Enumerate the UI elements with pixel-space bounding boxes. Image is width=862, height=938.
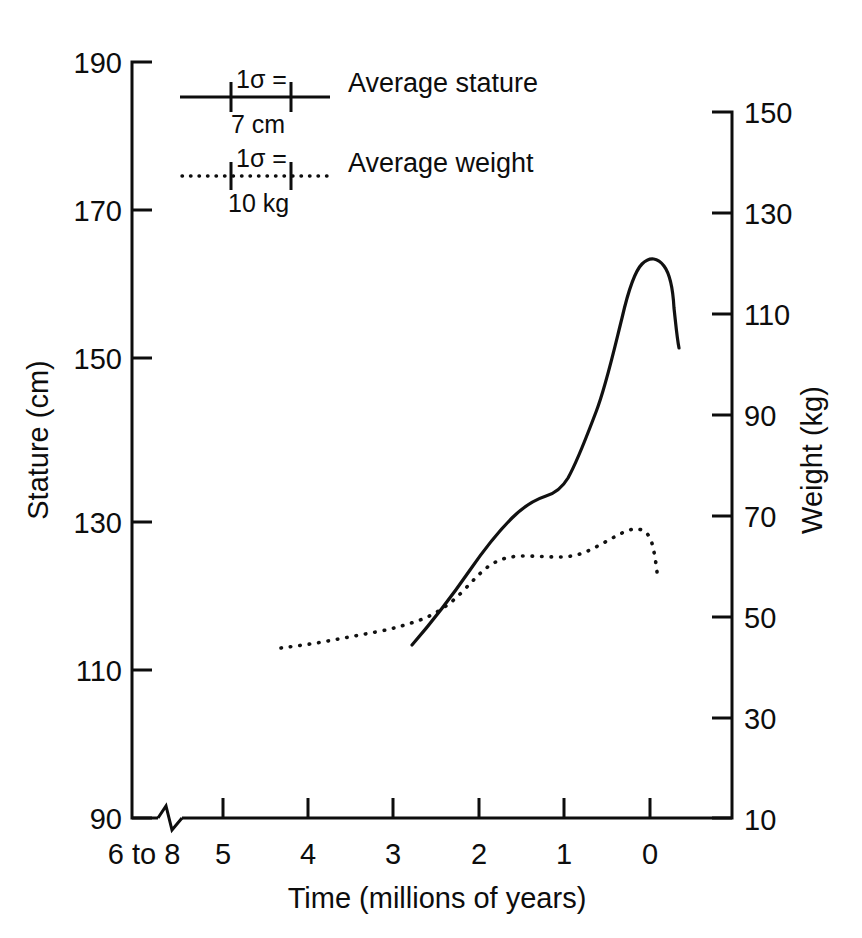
- left-axis-group: 190 170 150 130 110 90 Stature (cm): [22, 47, 152, 835]
- right-tick-label-130: 130: [744, 198, 792, 230]
- x-tick-label-2: 2: [471, 838, 487, 870]
- right-tick-label-110: 110: [744, 299, 790, 331]
- left-tick-label-190: 190: [74, 47, 122, 79]
- right-tick-label-50: 50: [744, 602, 776, 634]
- x-tick-label-4: 4: [300, 838, 316, 870]
- right-tick-label-90: 90: [744, 400, 776, 432]
- x-tick-label-6to8: 6 to 8: [108, 838, 181, 870]
- x-axis-break-zigzag: [158, 806, 182, 830]
- right-tick-label-150: 150: [744, 97, 792, 129]
- legend-item-average-weight: 1σ = 10 kg Average weight: [182, 144, 534, 217]
- x-axis-title: Time (millions of years): [288, 882, 587, 914]
- legend-sigma-value-stature: 7 cm: [231, 110, 285, 138]
- x-tick-label-0: 0: [642, 838, 658, 870]
- legend-group: 1σ = 7 cm Average stature 1σ = 10 kg Ave…: [180, 65, 538, 217]
- legend-item-average-stature: 1σ = 7 cm Average stature: [180, 65, 538, 138]
- series-average-stature: [412, 259, 679, 645]
- left-tick-label-170: 170: [74, 195, 122, 227]
- right-tick-label-10: 10: [744, 804, 776, 836]
- chart-figure: 190 170 150 130 110 90 Stature (cm) 150 …: [0, 0, 862, 938]
- legend-sigma-value-weight: 10 kg: [228, 189, 289, 217]
- left-tick-label-110: 110: [76, 655, 122, 687]
- series-average-weight: [281, 529, 658, 648]
- right-tick-label-30: 30: [744, 703, 776, 735]
- left-tick-label-150: 150: [74, 343, 122, 375]
- right-tick-label-70: 70: [744, 501, 776, 533]
- legend-sigma-label-stature: 1σ =: [236, 65, 287, 93]
- legend-label-average-weight: Average weight: [348, 148, 534, 178]
- x-tick-label-1: 1: [556, 838, 572, 870]
- right-axis-title: Weight (kg): [796, 386, 828, 534]
- x-tick-label-3: 3: [385, 838, 401, 870]
- left-tick-label-90: 90: [90, 803, 122, 835]
- x-tick-label-5: 5: [215, 838, 231, 870]
- legend-sigma-label-weight: 1σ =: [236, 144, 287, 172]
- x-axis-group: 6 to 8 5 4 3 2 1 0 Time (millions of yea…: [108, 798, 732, 914]
- data-series-group: [281, 259, 679, 648]
- stature-weight-line-chart: 190 170 150 130 110 90 Stature (cm) 150 …: [0, 0, 862, 938]
- right-axis-group: 150 130 110 90 70 50 30 10 Weight (kg): [712, 97, 828, 836]
- left-axis-title: Stature (cm): [22, 360, 54, 520]
- legend-label-average-stature: Average stature: [348, 68, 538, 98]
- right-axis-line: [712, 112, 732, 818]
- left-axis-line: [132, 62, 152, 818]
- left-tick-label-130: 130: [74, 507, 122, 539]
